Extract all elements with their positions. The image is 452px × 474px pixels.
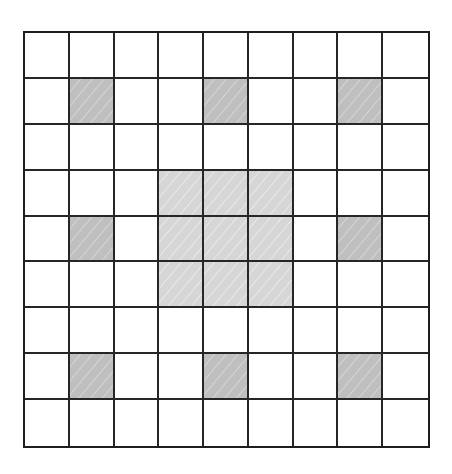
grid-cell xyxy=(294,308,339,354)
grid-cell xyxy=(70,262,115,308)
grid-cell xyxy=(338,171,383,217)
grid-cell xyxy=(159,79,204,125)
grid-cell-shaded-light xyxy=(204,262,249,308)
grid-cell-shaded-light xyxy=(249,217,294,263)
grid-cell xyxy=(25,400,70,446)
grid-cell-shaded-light xyxy=(249,171,294,217)
grid-cell xyxy=(159,354,204,400)
grid-cell xyxy=(115,33,160,79)
grid-cell xyxy=(159,400,204,446)
grid-cell xyxy=(383,217,428,263)
grid-cell xyxy=(25,262,70,308)
grid-cell xyxy=(383,308,428,354)
grid-cell xyxy=(159,125,204,171)
grid-cell xyxy=(115,308,160,354)
grid-cell xyxy=(383,125,428,171)
grid-cell xyxy=(249,354,294,400)
grid-cell-shaded-light xyxy=(204,217,249,263)
grid-cell-shaded-dark xyxy=(70,354,115,400)
grid-cell-shaded-light xyxy=(159,262,204,308)
grid-cell xyxy=(115,125,160,171)
grid-cell xyxy=(294,125,339,171)
grid-cell xyxy=(294,354,339,400)
grid-cell xyxy=(70,400,115,446)
grid-cell xyxy=(159,308,204,354)
grid-cell xyxy=(338,400,383,446)
grid-cell-shaded-light xyxy=(159,171,204,217)
grid-cell-shaded-dark xyxy=(204,354,249,400)
grid-cell xyxy=(383,262,428,308)
grid-cell-shaded-dark xyxy=(70,217,115,263)
grid-cell xyxy=(25,308,70,354)
grid-cell-shaded-light xyxy=(249,262,294,308)
grid-cell xyxy=(204,308,249,354)
grid-cell xyxy=(249,125,294,171)
grid-cell-shaded-dark xyxy=(338,79,383,125)
grid-cell-shaded-dark xyxy=(338,217,383,263)
grid-cell xyxy=(294,79,339,125)
grid-cell xyxy=(383,79,428,125)
grid-cell xyxy=(70,33,115,79)
grid-cell xyxy=(115,262,160,308)
grid-cell xyxy=(159,33,204,79)
grid-cell xyxy=(383,33,428,79)
grid-cell xyxy=(25,125,70,171)
grid-cell xyxy=(294,400,339,446)
grid-cell xyxy=(294,262,339,308)
grid-cell xyxy=(70,171,115,217)
grid-cell xyxy=(25,354,70,400)
grid-cell xyxy=(383,354,428,400)
grid-cell xyxy=(294,33,339,79)
grid-cell xyxy=(115,400,160,446)
grid-cell xyxy=(25,79,70,125)
grid-cell xyxy=(25,217,70,263)
grid-cell xyxy=(383,171,428,217)
grid-cell xyxy=(204,33,249,79)
grid-cell xyxy=(115,354,160,400)
grid-cell xyxy=(249,400,294,446)
grid-cell-shaded-dark xyxy=(338,354,383,400)
grid-cell xyxy=(338,308,383,354)
grid-cell xyxy=(115,79,160,125)
grid-cell xyxy=(249,308,294,354)
grid-cell xyxy=(115,171,160,217)
grid-cell-shaded-dark xyxy=(70,79,115,125)
grid-cell xyxy=(25,171,70,217)
grid-cell xyxy=(383,400,428,446)
grid-cell-shaded-dark xyxy=(204,79,249,125)
grid-cell xyxy=(115,217,160,263)
grid-cell xyxy=(294,217,339,263)
grid-cell xyxy=(204,125,249,171)
grid-cell xyxy=(338,33,383,79)
grid-cell xyxy=(70,125,115,171)
grid-cell xyxy=(70,308,115,354)
grid-cell-shaded-light xyxy=(204,171,249,217)
grid-cell xyxy=(338,262,383,308)
grid-cell-shaded-light xyxy=(159,217,204,263)
grid-cell xyxy=(249,79,294,125)
grid-cell xyxy=(204,400,249,446)
grid-cell xyxy=(338,125,383,171)
grid-cell xyxy=(294,171,339,217)
grid-cell xyxy=(249,33,294,79)
grid-board xyxy=(23,31,430,448)
grid-cell xyxy=(25,33,70,79)
